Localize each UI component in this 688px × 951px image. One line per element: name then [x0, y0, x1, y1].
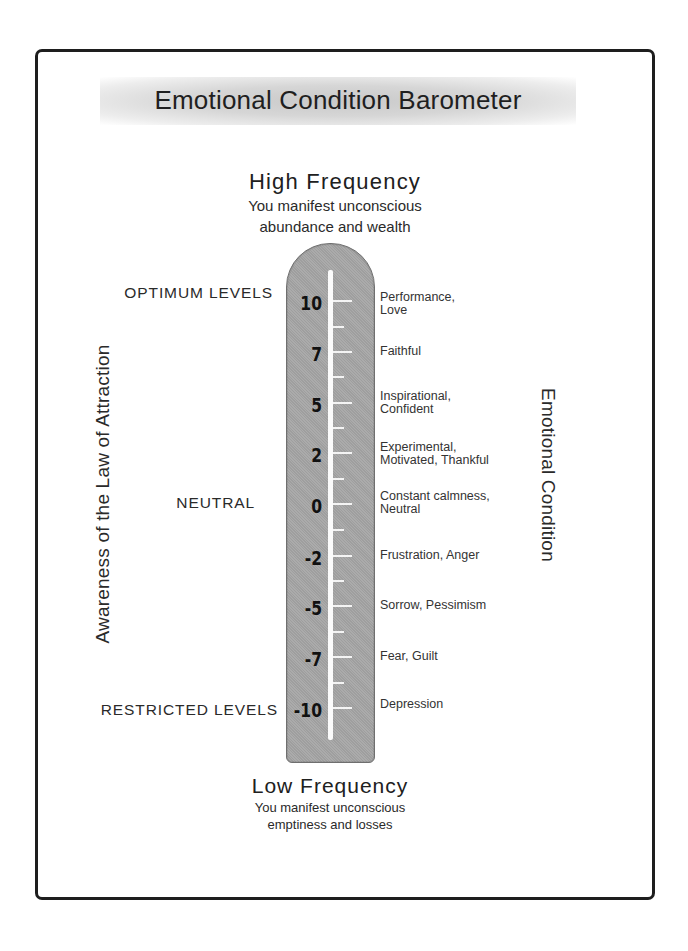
high-frequency-subtitle-line1: You manifest unconscious: [185, 196, 485, 216]
tick-major: [333, 300, 352, 302]
zone-label-neutral: NEUTRAL: [60, 493, 255, 513]
tick-major: [333, 402, 352, 404]
emotion-label: Frustration, Anger: [380, 549, 540, 562]
tick-minor: [333, 478, 344, 480]
emotion-label-line1: Depression: [380, 698, 540, 711]
tick-minor: [333, 427, 344, 429]
scale-value: -10: [288, 699, 322, 721]
emotion-label-line2: Love: [380, 304, 540, 317]
emotion-label: Depression: [380, 698, 540, 711]
emotion-label-line1: Fear, Guilt: [380, 650, 540, 663]
emotion-label: Fear, Guilt: [380, 650, 540, 663]
emotion-label-line2: Motivated, Thankful: [380, 454, 540, 467]
emotion-label-line2: Confident: [380, 403, 540, 416]
tick-major: [333, 503, 352, 505]
low-frequency-subtitle-line1: You manifest unconscious: [180, 799, 480, 816]
page-title: Emotional Condition Barometer: [100, 82, 576, 118]
emotion-label-line2: Neutral: [380, 503, 540, 516]
low-frequency-subtitle-line2: emptiness and losses: [180, 816, 480, 833]
emotion-label: Constant calmness, Neutral: [380, 490, 540, 516]
tick-major: [333, 555, 352, 557]
thermometer-stem: [328, 270, 333, 740]
scale-value: 5: [288, 394, 322, 416]
low-frequency-heading: Low Frequency: [180, 773, 480, 799]
tick-major: [333, 656, 352, 658]
zone-label-restricted: RESTRICTED LEVELS: [40, 700, 278, 720]
tick-minor: [333, 529, 344, 531]
tick-major: [333, 605, 352, 607]
tick-minor: [333, 580, 344, 582]
scale-value: 0: [288, 495, 322, 517]
emotion-label: Performance, Love: [380, 291, 540, 317]
scale-value: 2: [288, 444, 322, 466]
scale-value: -7: [288, 648, 322, 670]
tick-major: [333, 351, 352, 353]
tick-minor: [333, 326, 344, 328]
scale-value: 7: [288, 343, 322, 365]
emotion-label: Faithful: [380, 345, 540, 358]
tick-minor: [333, 682, 344, 684]
high-frequency-heading: High Frequency: [185, 168, 485, 196]
emotion-label: Experimental, Motivated, Thankful: [380, 441, 540, 467]
scale-value: -2: [288, 547, 322, 569]
tick-minor: [333, 376, 344, 378]
zone-label-optimum: OPTIMUM LEVELS: [60, 283, 273, 303]
high-frequency-subtitle-line2: abundance and wealth: [185, 217, 485, 237]
tick-major: [333, 707, 352, 709]
tick-minor: [333, 631, 344, 633]
scale-value: 10: [288, 292, 322, 314]
tick-major: [333, 452, 352, 454]
emotion-label-line1: Frustration, Anger: [380, 549, 540, 562]
right-axis-label: Emotional Condition: [537, 375, 559, 575]
emotion-label-line1: Faithful: [380, 345, 540, 358]
emotion-label: Inspirational, Confident: [380, 390, 540, 416]
emotion-label-line1: Sorrow, Pessimism: [380, 599, 540, 612]
emotion-label: Sorrow, Pessimism: [380, 599, 540, 612]
scale-value: -5: [288, 597, 322, 619]
